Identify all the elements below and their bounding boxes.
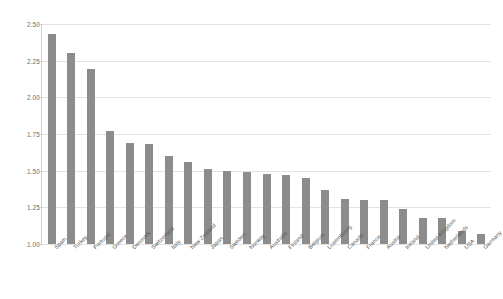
y-tick-mark: [38, 97, 41, 98]
bar: [263, 174, 271, 244]
bar: [302, 178, 310, 244]
y-tick-mark: [38, 207, 41, 208]
bar: [419, 218, 427, 244]
y-tick-label: 1.75: [4, 131, 40, 138]
bar: [223, 171, 231, 244]
y-tick-label: 2.00: [4, 94, 40, 101]
y-tick-label: 1.50: [4, 167, 40, 174]
bar: [106, 131, 114, 244]
bar-series: [42, 24, 491, 244]
y-tick-label: 1.00: [4, 241, 40, 248]
y-axis: 1.001.251.501.752.002.252.50: [0, 0, 40, 299]
bar: [126, 143, 134, 244]
bar: [67, 53, 75, 244]
bar: [87, 69, 95, 244]
x-axis-labels: SpainTurkeyPortugalGreeceDenmarkSwitzerl…: [42, 246, 491, 299]
y-tick-mark: [38, 244, 41, 245]
y-tick-label: 1.25: [4, 204, 40, 211]
y-tick-mark: [38, 134, 41, 135]
bar: [184, 162, 192, 244]
bar: [48, 34, 56, 244]
y-tick-label: 2.50: [4, 21, 40, 28]
y-tick-mark: [38, 24, 41, 25]
y-tick-mark: [38, 61, 41, 62]
y-tick-label: 2.25: [4, 57, 40, 64]
y-tick-mark: [38, 171, 41, 172]
